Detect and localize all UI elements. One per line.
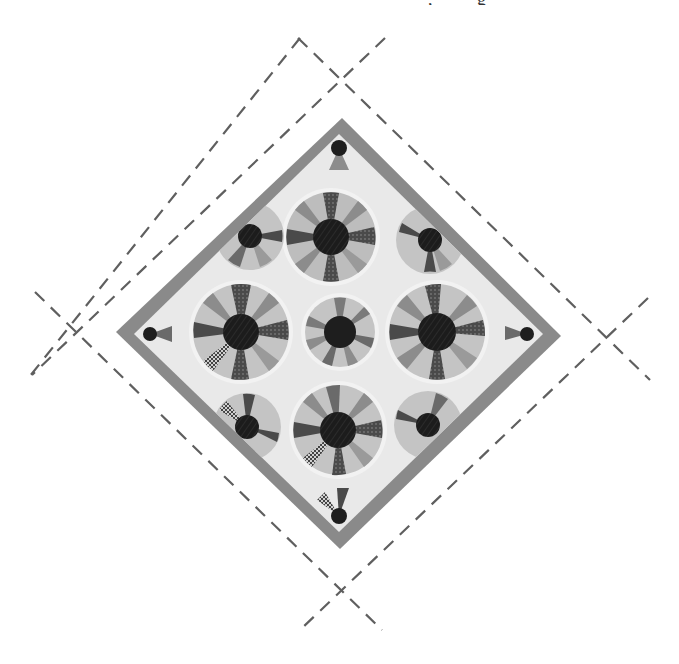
wheel-top <box>282 188 380 286</box>
wheel-center <box>301 293 379 371</box>
wheel-right <box>385 280 489 384</box>
quilt-diagram <box>0 0 679 664</box>
wheel-left <box>189 280 293 384</box>
wheel-bottom <box>289 381 387 479</box>
wheels-group <box>143 140 534 524</box>
